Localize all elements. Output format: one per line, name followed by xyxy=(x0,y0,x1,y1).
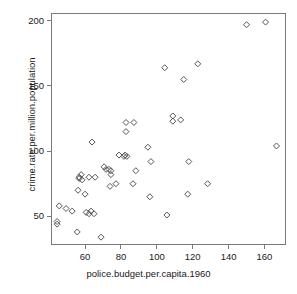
x-tick-label: 160 xyxy=(257,252,273,262)
x-tick-mark xyxy=(192,245,193,249)
x-tick-mark xyxy=(85,245,86,249)
x-tick-mark xyxy=(264,245,265,249)
plot-area-frame xyxy=(51,13,286,245)
scatter-plot-figure: 608010012014016050100150200 police.budge… xyxy=(0,0,297,294)
x-tick-mark xyxy=(156,245,157,249)
x-tick-label: 60 xyxy=(80,252,91,262)
x-tick-label: 80 xyxy=(116,252,127,262)
x-axis-label: police.budget.per.capita.1960 xyxy=(0,268,297,279)
x-tick-mark xyxy=(228,245,229,249)
x-tick-label: 120 xyxy=(185,252,201,262)
x-tick-mark xyxy=(120,245,121,249)
y-tick-mark xyxy=(47,85,51,86)
x-tick-label: 140 xyxy=(221,252,237,262)
y-tick-mark xyxy=(47,20,51,21)
y-axis-label: crime.rate.per.million.population xyxy=(26,9,37,241)
y-tick-mark xyxy=(47,216,51,217)
x-tick-label: 100 xyxy=(149,252,165,262)
y-tick-mark xyxy=(47,151,51,152)
